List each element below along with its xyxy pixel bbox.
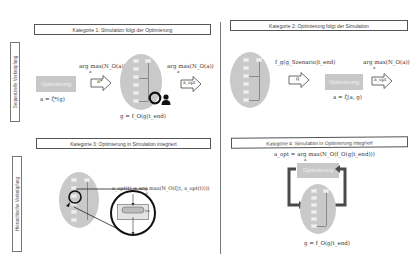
category-3-inner-loop: [117, 192, 151, 236]
person-icon: [161, 94, 171, 105]
sim-connector: [139, 101, 148, 102]
category-4-formula: a_opt = arg max(N_O(f_O(g|t_end))): [274, 151, 375, 157]
vertical-divider: [220, 22, 221, 254]
sim-connector: [249, 76, 259, 77]
sim-block: [243, 66, 249, 70]
category-1-title: Kategorie 1: Simulation folgt der Optimi…: [34, 24, 211, 35]
category-1-optimizer-formula: a = ζ*(g): [40, 96, 65, 102]
category-2-simulation-formula: f_g(g_Szenario|t_end): [275, 59, 335, 65]
category-1-optimizer-label: Optimierung: [41, 81, 71, 87]
sim-block: [311, 196, 317, 200]
category-1-arrow-1-label: a*: [97, 78, 102, 84]
sim-block: [311, 189, 317, 193]
category-2-arrow-2-label: a_opt: [374, 77, 386, 82]
sim-connector: [259, 62, 260, 100]
category-2-argmax-sub: a: [373, 65, 375, 70]
category-3-title: Kategorie 3: Optimierung in Simulation i…: [36, 138, 211, 149]
side-label-sequential-text: Sequenzielle Verknüpfung: [13, 56, 18, 108]
sim-block: [133, 91, 139, 95]
category-4-simulation-formula: g = f_O(g|t_end): [304, 240, 350, 246]
side-label-hierarchical: Hierarchische Verknüpfung: [12, 156, 22, 252]
sim-block: [311, 217, 317, 221]
sim-connector: [317, 226, 326, 227]
category-2-optimizer-box: Optimierung: [325, 74, 363, 90]
side-label-hierarchical-text: Hierarchische Verknüpfung: [15, 177, 20, 231]
category-2-title: Kategorie 2: Optimierung folgt der Simul…: [230, 20, 408, 31]
category-2-optimizer-label: Optimierung: [329, 79, 359, 85]
sim-block: [71, 178, 77, 182]
category-1-argmax-sub: a: [89, 69, 91, 74]
sim-connector: [326, 193, 327, 226]
category-1-argmax-formula: arg max(N_O(a)): [79, 63, 126, 69]
category-1-optimizer-box: Optimierung: [36, 76, 76, 92]
category-1-simulation-formula: g = f_O(g|t_end): [120, 113, 166, 119]
category-1-argmax2-sub: a: [177, 69, 179, 74]
category-2-arrow-1-label: g: [296, 75, 299, 81]
sim-block: [311, 210, 317, 214]
sim-block: [243, 90, 249, 94]
category-3-formula: x_opt(t) = arg max(N_O(ζ(t, x_opt(t)))): [112, 185, 210, 191]
sim-block: [243, 82, 249, 86]
sim-block: [133, 83, 139, 87]
sim-block: [311, 203, 317, 207]
category-4-title: Kategorie 4: Simulation in Optimierung i…: [231, 136, 408, 149]
sim-block: [243, 58, 249, 62]
sim-block: [133, 67, 139, 71]
magnifier-icon: [148, 91, 162, 105]
category-2-optimizer-formula: a = ζ(a, g): [333, 94, 362, 100]
sim-connector: [249, 100, 259, 101]
sim-connector: [139, 78, 148, 79]
category-3-formula-sub: x: [146, 191, 148, 195]
category-2-argmax-formula: arg max(N_O(a)): [363, 59, 410, 65]
category-4-formula-sub: a: [304, 157, 306, 162]
category-1-argmax2-formula: arg max(N_O(a)): [167, 63, 214, 69]
sim-block: [133, 59, 139, 63]
category-1-arrow-2-label: a_opt: [183, 80, 195, 85]
side-label-sequential: Sequenzielle Verknüpfung: [10, 42, 20, 122]
